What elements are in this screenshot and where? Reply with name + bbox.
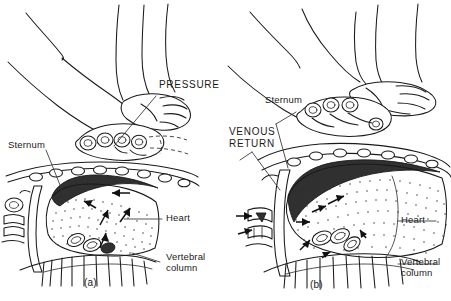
label-vertebral-column-a-line1: Vertebral: [166, 251, 205, 262]
great-vessels-a: [2, 186, 42, 272]
label-vertebral-column-b-line2: column: [401, 267, 433, 278]
thoracic-vessels-b: [310, 226, 362, 254]
label-pressure: PRESSURE: [159, 79, 220, 91]
cpr-figure: PRESSURE Sternum Heart Vertebralcolumn (…: [0, 0, 451, 301]
caption-panel-b: (b): [310, 279, 323, 290]
label-heart-a: Heart: [166, 213, 190, 224]
label-vertebral-column-a-line2: column: [166, 262, 198, 273]
figure-artwork: [0, 0, 451, 301]
label-vertebral-column-b: Vertebralcolumn: [401, 257, 440, 278]
label-vertebral-column-a: Vertebralcolumn: [166, 252, 205, 273]
label-heart-b: Heart: [401, 215, 425, 226]
compressed-region-b: [288, 160, 440, 222]
label-venous-return-line1: VENOUS: [229, 126, 275, 137]
caption-panel-a: (a): [84, 277, 97, 288]
label-sternum-b: Sternum: [265, 95, 302, 106]
rescuer-hands-b: [297, 82, 436, 137]
heart-stipple-a: [51, 198, 153, 254]
label-vertebral-column-b-line1: Vertebral: [401, 256, 440, 267]
label-sternum-a: Sternum: [8, 140, 45, 151]
label-venous-return: VENOUSRETURN: [229, 126, 275, 149]
rescuer-hands-a: [76, 94, 191, 161]
great-vessels-b: [246, 170, 290, 276]
label-venous-return-line2: RETURN: [229, 138, 275, 149]
